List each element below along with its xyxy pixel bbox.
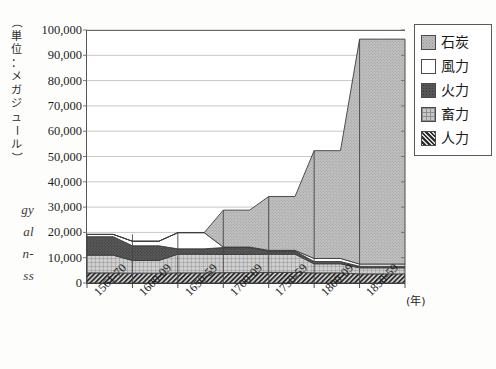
x-axis-tick-label: 1600-09 [136,261,175,300]
x-axis-tick-label: 1850-59 [363,261,402,300]
legend-swatch-icon [421,131,436,146]
legend-item-label: 風力 [441,59,469,73]
legend-swatch-icon [421,59,436,74]
chart-page: gy al n- ss （単位：メガジュール） 010,00020,00030,… [0,0,496,369]
legend-item: 火力 [421,78,487,102]
legend-item: 風力 [421,54,487,78]
legend-swatch-icon [421,107,436,122]
chart-legend: 石炭風力火力畜力人力 [414,24,492,156]
x-axis-tick-label: 1800-09 [318,261,357,300]
legend-item-label: 石炭 [441,35,469,49]
x-axis-tick-label: 1561-70 [91,261,130,300]
x-axis-tick-label: 1650-59 [182,261,221,300]
legend-item: 畜力 [421,102,487,126]
legend-item-label: 畜力 [441,107,469,121]
legend-swatch-icon [421,83,436,98]
legend-swatch-icon [421,35,436,50]
legend-item-label: 火力 [441,83,469,97]
x-axis-unit-label: (年) [406,292,426,308]
x-axis-tick-label: 1750-59 [272,261,311,300]
x-axis-tick-label: 1700-09 [227,261,266,300]
legend-item: 石炭 [421,30,487,54]
legend-item-label: 人力 [441,131,469,145]
legend-item: 人力 [421,126,487,150]
